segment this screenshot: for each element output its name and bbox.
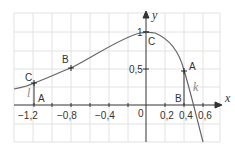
point-label-A: A (38, 93, 45, 104)
tick-m08: −0,8 (57, 110, 77, 121)
tick-05: 0,5 (129, 64, 143, 75)
tick-06: 0,6 (198, 110, 212, 121)
tick-m12: −1,2 (18, 110, 38, 121)
tick-04: 0,4 (179, 110, 193, 121)
point-label-B: B (175, 93, 182, 104)
axes (14, 11, 222, 142)
grid (14, 13, 220, 142)
point-label-A: A (189, 61, 196, 72)
point-label-C: C (25, 72, 32, 83)
x-axis-label: x (224, 91, 231, 105)
tick-1: 1 (137, 27, 143, 38)
segment-label-l: l (27, 86, 31, 100)
point-label-B: B (62, 54, 69, 65)
tick-m04: −0,4 (95, 110, 115, 121)
y-axis-label: y (151, 8, 158, 22)
tick-02: 0,2 (160, 110, 174, 121)
curve-label-k: k (193, 80, 199, 94)
tick-0: 0 (138, 108, 144, 119)
point-label-C: C (148, 36, 155, 47)
function-graph: x y −1,2 −0,8 −0,4 0 0,2 0,4 0,6 0,5 1 C… (0, 0, 235, 151)
